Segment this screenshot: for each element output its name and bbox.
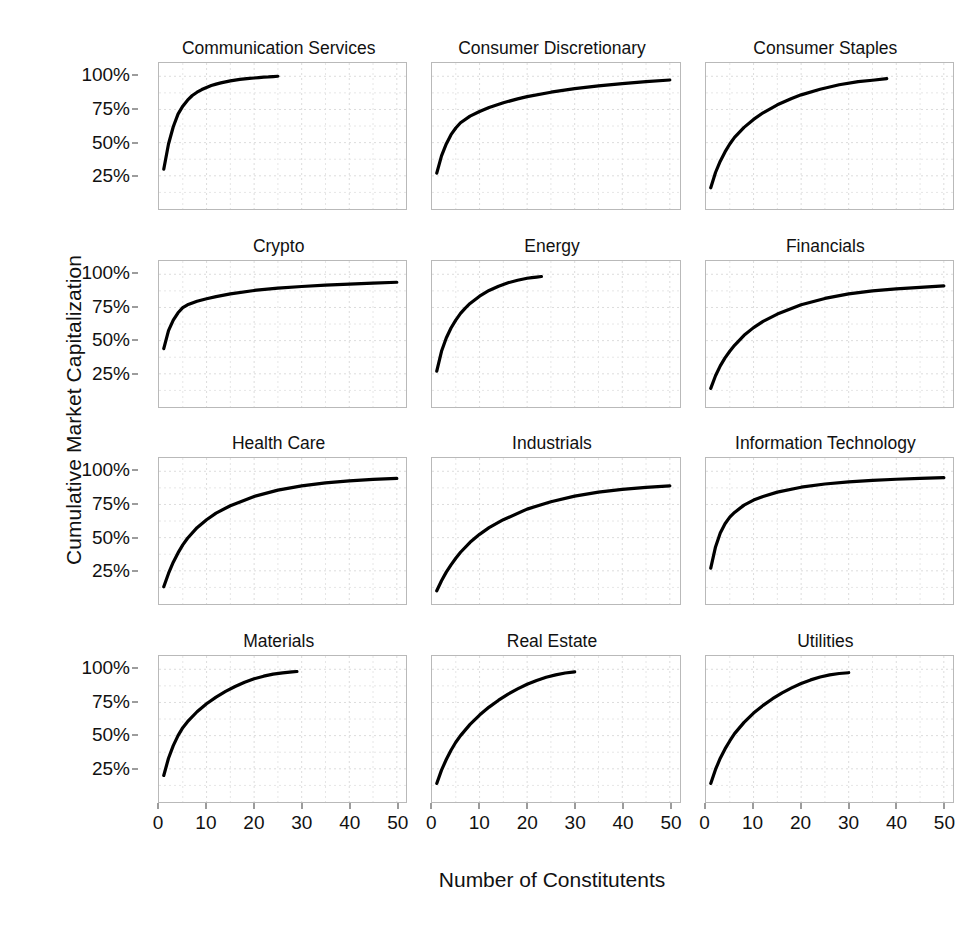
x-axis-title: Number of Constitutents — [146, 868, 958, 892]
y-tick-label: 75% — [92, 98, 130, 120]
y-tick-label: 25% — [92, 560, 130, 582]
x-tick-label: 20 — [243, 812, 264, 834]
x-tick-mark — [205, 803, 206, 809]
facet-title: Industrials — [419, 433, 684, 453]
y-tick-mark — [132, 735, 138, 736]
x-tick-mark — [623, 803, 624, 809]
y-tick-label: 25% — [92, 758, 130, 780]
y-tick-label: 75% — [92, 296, 130, 318]
y-tick-label: 50% — [92, 527, 130, 549]
series-line — [710, 672, 848, 783]
x-axis-ticks: 01020304050 — [431, 803, 680, 837]
plot-area — [431, 260, 680, 408]
facet-title: Real Estate — [419, 631, 684, 651]
y-tick-mark — [132, 667, 138, 668]
y-tick-label: 50% — [92, 132, 130, 154]
x-tick-label: 40 — [886, 812, 907, 834]
y-tick-mark — [132, 571, 138, 572]
gridlines — [432, 261, 679, 407]
gridlines — [706, 656, 953, 802]
facet-panel-information-technology: Information Technology — [693, 431, 958, 629]
x-tick-label: 50 — [387, 812, 408, 834]
x-tick-mark — [752, 803, 753, 809]
facet-panel-financials: Financials — [693, 234, 958, 432]
gridlines — [432, 63, 679, 209]
facet-panel-crypto: Crypto25%50%75%100% — [146, 234, 411, 432]
gridlines — [159, 63, 406, 209]
x-tick-label: 10 — [195, 812, 216, 834]
facet-panel-health-care: Health Care25%50%75%100% — [146, 431, 411, 629]
facet-panel-industrials: Industrials — [419, 431, 684, 629]
facet-grid: Communication Services25%50%75%100%Consu… — [146, 36, 958, 826]
series-line — [164, 282, 397, 348]
x-axis-ticks: 01020304050 — [705, 803, 954, 837]
x-tick-label: 30 — [565, 812, 586, 834]
x-tick-mark — [800, 803, 801, 809]
faceted-chart-figure: Cumulative Market Capitalization Number … — [0, 0, 963, 926]
x-tick-mark — [575, 803, 576, 809]
x-tick-mark — [301, 803, 302, 809]
x-tick-mark — [848, 803, 849, 809]
y-tick-mark — [132, 109, 138, 110]
series-line — [710, 285, 943, 387]
plot-area — [705, 655, 954, 803]
y-tick-mark — [132, 470, 138, 471]
y-axis-ticks: 25%50%75%100% — [72, 655, 138, 803]
x-tick-label: 0 — [426, 812, 437, 834]
y-tick-mark — [132, 272, 138, 273]
x-tick-label: 30 — [838, 812, 859, 834]
y-tick-label: 50% — [92, 724, 130, 746]
x-tick-mark — [158, 803, 159, 809]
facet-title: Crypto — [146, 236, 411, 256]
y-axis-ticks: 25%50%75%100% — [72, 62, 138, 210]
facet-title: Energy — [419, 236, 684, 256]
x-tick-mark — [944, 803, 945, 809]
gridlines — [432, 656, 679, 802]
x-tick-label: 30 — [291, 812, 312, 834]
x-tick-label: 0 — [699, 812, 710, 834]
y-tick-label: 100% — [81, 459, 130, 481]
y-tick-mark — [132, 142, 138, 143]
x-tick-mark — [397, 803, 398, 809]
x-tick-mark — [704, 803, 705, 809]
y-tick-mark — [132, 306, 138, 307]
plot-area — [431, 655, 680, 803]
y-tick-label: 25% — [92, 363, 130, 385]
y-tick-mark — [132, 176, 138, 177]
facet-title: Information Technology — [693, 433, 958, 453]
x-axis-ticks: 01020304050 — [158, 803, 407, 837]
facet-panel-real-estate: Real Estate01020304050 — [419, 629, 684, 827]
series-line — [437, 671, 575, 782]
x-tick-label: 50 — [660, 812, 681, 834]
x-tick-mark — [253, 803, 254, 809]
y-tick-mark — [132, 504, 138, 505]
y-tick-label: 75% — [92, 691, 130, 713]
series-line — [437, 486, 670, 591]
gridlines — [706, 261, 953, 407]
y-tick-label: 100% — [81, 262, 130, 284]
facet-panel-communication-services: Communication Services25%50%75%100% — [146, 36, 411, 234]
facet-panel-consumer-discretionary: Consumer Discretionary — [419, 36, 684, 234]
y-tick-mark — [132, 75, 138, 76]
y-axis-ticks: 25%50%75%100% — [72, 260, 138, 408]
plot-area — [158, 62, 407, 210]
x-tick-label: 40 — [613, 812, 634, 834]
y-tick-label: 100% — [81, 64, 130, 86]
facet-panel-utilities: Utilities01020304050 — [693, 629, 958, 827]
facet-panel-materials: Materials25%50%75%100%01020304050 — [146, 629, 411, 827]
x-tick-mark — [349, 803, 350, 809]
x-tick-label: 50 — [934, 812, 955, 834]
y-tick-mark — [132, 537, 138, 538]
plot-area — [158, 260, 407, 408]
facet-title: Communication Services — [146, 38, 411, 58]
gridlines — [159, 656, 406, 802]
y-tick-mark — [132, 340, 138, 341]
series-line — [710, 79, 886, 188]
plot-area — [158, 457, 407, 605]
x-tick-mark — [527, 803, 528, 809]
x-tick-label: 40 — [339, 812, 360, 834]
x-tick-label: 10 — [469, 812, 490, 834]
x-tick-mark — [671, 803, 672, 809]
plot-area — [431, 457, 680, 605]
plot-area — [158, 655, 407, 803]
